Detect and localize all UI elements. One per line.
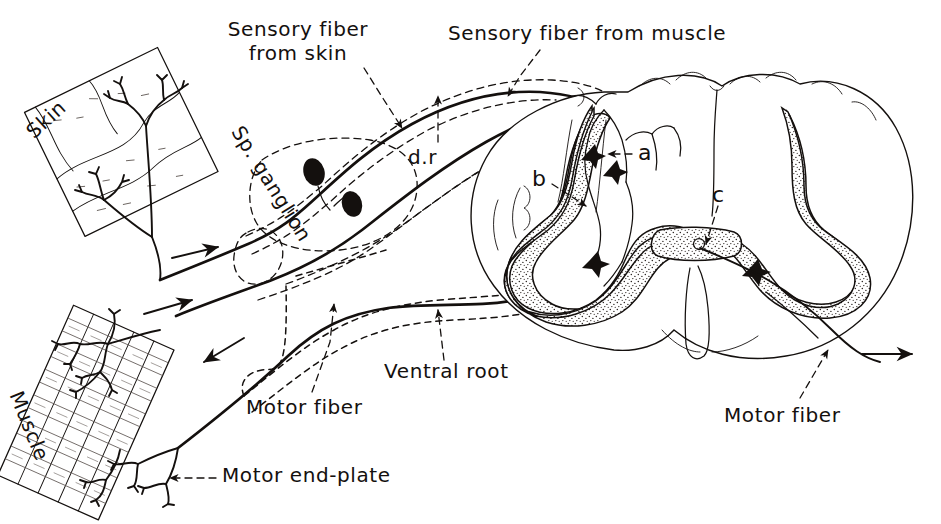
- arrow-motor-efferent-left: [204, 338, 244, 362]
- label-motor-fiber-right: Motor fiber: [724, 404, 841, 428]
- skin-nerve-endings: [75, 75, 188, 280]
- skin-patch: [25, 47, 219, 236]
- leader-sensory-muscle: [508, 50, 540, 96]
- ganglion-cell-body-2: [339, 189, 365, 220]
- muscle-spindle-ending: [52, 309, 160, 398]
- leader-sensory-skin: [364, 68, 402, 128]
- reflex-arc-figure: Skin Muscle Sensory fiber from skin Sens…: [0, 0, 941, 524]
- label-marker-b: b: [532, 166, 546, 192]
- ganglion-cell-body-1: [300, 156, 328, 189]
- leader-motor-fiber-right: [800, 350, 828, 398]
- label-motor-end-plate: Motor end-plate: [222, 464, 391, 488]
- label-motor-fiber-left: Motor fiber: [246, 396, 363, 420]
- label-dorsal-root: d.r: [408, 146, 437, 170]
- label-ventral-root: Ventral root: [384, 360, 509, 384]
- drawing-canvas: [0, 0, 941, 524]
- label-marker-c: c: [712, 182, 724, 208]
- leader-motor-fiber-left: [312, 304, 334, 392]
- small-sheath-capsule: [234, 228, 283, 284]
- leader-ventral-root: [438, 310, 444, 360]
- arrow-skin-afferent: [172, 247, 218, 258]
- motor-end-plate-endings: [80, 448, 178, 507]
- label-sensory-fiber-from-skin: Sensory fiber from skin: [198, 18, 398, 65]
- gray-commissure: [651, 227, 741, 260]
- label-sensory-fiber-from-muscle: Sensory fiber from muscle: [448, 22, 726, 46]
- label-marker-a: a: [638, 140, 651, 166]
